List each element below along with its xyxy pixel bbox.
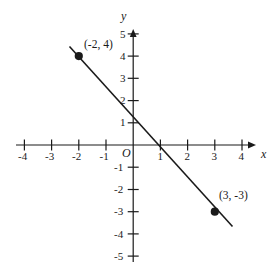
y-tick-label-neg4: -4 [114, 229, 123, 240]
x-tick-label-neg1: -1 [100, 151, 109, 162]
y-tick-label-neg1: -1 [114, 162, 123, 173]
point-label-b: (3, -3) [219, 190, 248, 202]
x-axis-arrow-icon [248, 142, 256, 149]
x-tick-label-1: 1 [158, 151, 164, 162]
origin-label: O [122, 147, 131, 159]
point-label-a: (-2, 4) [84, 39, 113, 51]
x-tick-label-2: 2 [185, 151, 191, 162]
y-tick-label-5: 5 [120, 29, 126, 40]
y-tick-label-neg5: -5 [114, 251, 123, 262]
y-tick-label-neg3: -3 [114, 206, 123, 217]
y-tick-label-2: 2 [120, 95, 126, 106]
x-tick-label-neg4: -4 [18, 151, 27, 162]
x-tick-label-3: 3 [212, 151, 218, 162]
y-tick-label-3: 3 [120, 73, 126, 84]
y-tick-label-1: 1 [120, 117, 126, 128]
x-tick-label-4: 4 [239, 151, 245, 162]
x-tick-label-neg2: -2 [72, 151, 81, 162]
y-tick-label-4: 4 [120, 51, 126, 62]
plotted-line [70, 47, 233, 227]
data-point-marker [211, 208, 219, 216]
y-axis-label: y [121, 10, 126, 22]
x-tick-label-neg3: -3 [45, 151, 54, 162]
graph-canvas [0, 0, 274, 269]
data-point-marker [75, 52, 83, 60]
x-axis [16, 140, 256, 151]
coordinate-plane-figure: -4 -3 -2 -1 1 2 3 4 5 4 3 2 1 -1 -2 -3 -… [0, 0, 274, 269]
y-axis-arrow-icon [130, 29, 137, 37]
y-tick-label-neg2: -2 [114, 184, 123, 195]
x-axis-label: x [261, 148, 266, 160]
